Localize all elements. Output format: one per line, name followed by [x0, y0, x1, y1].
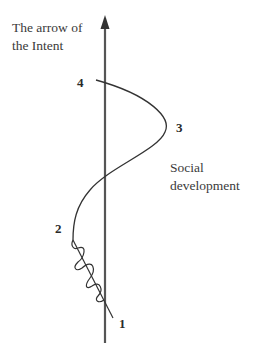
- point-label-4: 4: [77, 75, 84, 91]
- diagram-canvas: The arrow of the Intent Social developme…: [0, 0, 258, 359]
- axis-title-line2: the Intent: [12, 37, 82, 55]
- point-label-3: 3: [176, 120, 183, 136]
- point-label-2: 2: [55, 221, 62, 237]
- social-development-label: Social development: [170, 159, 240, 195]
- axis-title-line1: The arrow of: [12, 19, 82, 37]
- trend-line: [73, 240, 113, 318]
- side-label-line1: Social: [170, 159, 240, 177]
- development-curve: [73, 80, 166, 240]
- side-label-line2: development: [170, 177, 240, 195]
- oscillation-squiggle: [72, 240, 104, 302]
- arrowhead-icon: [101, 15, 110, 29]
- axis-title: The arrow of the Intent: [12, 19, 82, 55]
- point-label-1: 1: [119, 316, 126, 332]
